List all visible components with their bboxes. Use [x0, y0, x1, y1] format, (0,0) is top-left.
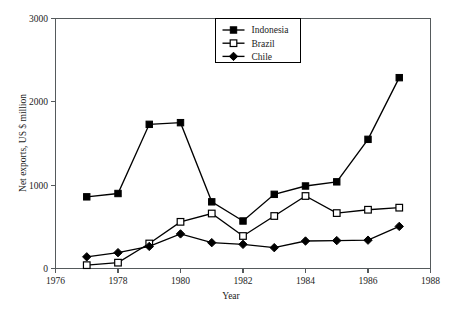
y-tick-label: 1000 — [29, 181, 48, 191]
data-point-marker — [146, 121, 152, 127]
data-point-marker — [83, 262, 90, 269]
x-tick-label: 1986 — [359, 276, 378, 286]
x-tick-label: 1982 — [234, 276, 253, 286]
y-tick-label: 2000 — [29, 97, 48, 107]
x-axis-ticks: 1976197819801982198419861988 — [46, 269, 440, 287]
y-tick-label: 3000 — [29, 14, 48, 24]
line-chart: 1976197819801982198419861988 01000200030… — [0, 0, 453, 314]
data-point-marker — [208, 210, 215, 217]
legend-label: Brazil — [252, 39, 276, 49]
data-point-marker — [271, 213, 278, 220]
data-point-marker — [302, 183, 308, 189]
data-point-marker — [395, 222, 403, 230]
series-indonesia — [84, 74, 403, 224]
x-tick-label: 1988 — [421, 276, 440, 286]
data-point-marker — [333, 210, 340, 217]
legend-label: Chile — [252, 52, 273, 62]
data-point-marker — [177, 119, 183, 125]
data-point-marker — [396, 204, 403, 211]
data-point-marker — [84, 194, 90, 200]
data-point-marker — [114, 248, 122, 256]
data-point-marker — [334, 179, 340, 185]
y-axis-title: Net exports, US $ million — [18, 94, 28, 192]
legend-marker — [230, 27, 236, 33]
data-point-marker — [301, 237, 309, 245]
series-layer — [83, 74, 404, 268]
data-point-marker — [365, 206, 372, 213]
data-point-marker — [364, 236, 372, 244]
data-point-marker — [240, 218, 246, 224]
y-axis-ticks: 0100020003000 — [29, 14, 56, 274]
legend-label: Indonesia — [252, 25, 290, 35]
data-point-marker — [176, 230, 184, 238]
x-axis-title: Year — [222, 291, 240, 301]
data-point-marker — [208, 238, 216, 246]
data-point-marker — [365, 136, 371, 142]
data-point-marker — [239, 240, 247, 248]
y-tick-label: 0 — [43, 264, 48, 274]
series-line — [87, 196, 400, 265]
x-tick-label: 1984 — [296, 276, 315, 286]
data-point-marker — [209, 199, 215, 205]
series-brazil — [83, 193, 402, 269]
series-line — [87, 78, 400, 221]
data-point-marker — [115, 190, 121, 196]
data-point-marker — [177, 219, 184, 226]
data-point-marker — [333, 236, 341, 244]
x-tick-label: 1980 — [171, 276, 190, 286]
x-tick-label: 1976 — [46, 276, 65, 286]
legend-marker — [230, 40, 237, 47]
chart-container: 1976197819801982198419861988 01000200030… — [0, 0, 453, 314]
x-tick-label: 1978 — [109, 276, 128, 286]
chart-legend: IndonesiaBrazilChile — [216, 19, 301, 63]
data-point-marker — [271, 191, 277, 197]
data-point-marker — [115, 259, 122, 266]
data-point-marker — [302, 193, 309, 200]
data-point-marker — [396, 74, 402, 80]
data-point-marker — [83, 253, 91, 261]
data-point-marker — [270, 243, 278, 251]
data-point-marker — [240, 233, 247, 240]
